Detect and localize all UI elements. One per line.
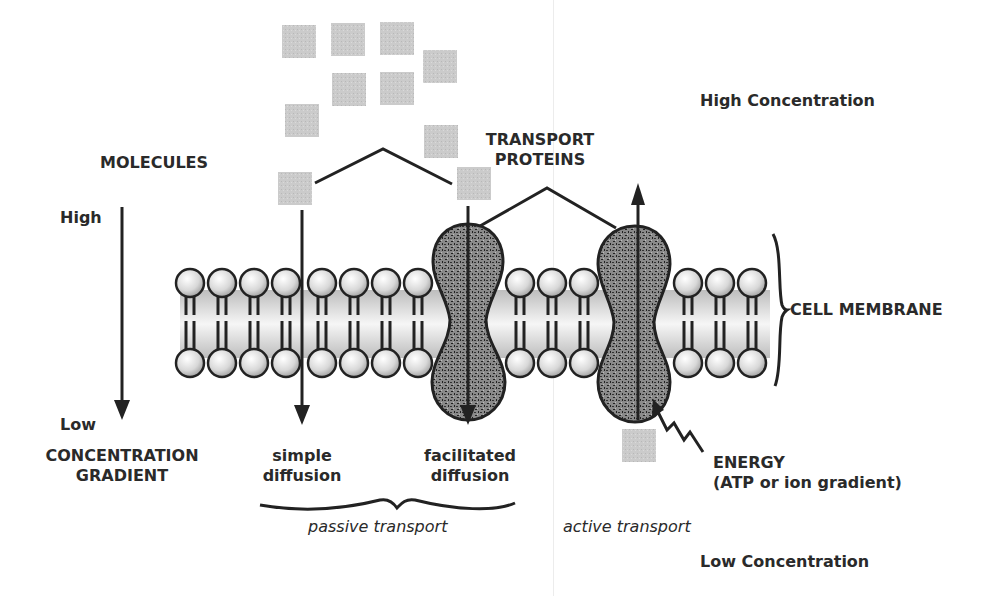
low-concentration-label: Low Concentration [700, 552, 869, 572]
phospholipid-head [404, 269, 432, 297]
phospholipid-head [570, 269, 598, 297]
facilitated-diffusion-label: facilitated diffusion [410, 446, 530, 486]
phospholipid-head [506, 269, 534, 297]
phospholipid-head [308, 349, 336, 377]
energy-lightning-icon [652, 399, 703, 452]
phospholipid-head [538, 349, 566, 377]
molecule-square [457, 167, 491, 200]
phospholipid-head [538, 269, 566, 297]
phospholipid-head [404, 349, 432, 377]
transport-proteins-line2: PROTEINS [480, 150, 600, 170]
gradient-high-label: High [60, 208, 102, 228]
phospholipid-head [340, 349, 368, 377]
phospholipid-head [240, 269, 268, 297]
phospholipid-head [372, 269, 400, 297]
transport-proteins-label: TRANSPORT PROTEINS [480, 130, 600, 170]
phospholipid-head [706, 349, 734, 377]
gradient-title-line1: CONCENTRATION [22, 446, 222, 466]
phospholipid-head [738, 269, 766, 297]
phospholipid-head [570, 349, 598, 377]
molecule-square [380, 22, 414, 55]
phospholipid-head [372, 349, 400, 377]
molecules-label: MOLECULES [100, 153, 208, 173]
simple-diffusion-line1: simple [252, 446, 352, 466]
phospholipid-head [674, 349, 702, 377]
energy-line2: (ATP or ion gradient) [713, 473, 902, 493]
molecule-square [424, 125, 458, 158]
molecule-square [285, 104, 319, 137]
phospholipid-head [208, 349, 236, 377]
phospholipid-head [208, 269, 236, 297]
molecule-square [622, 429, 656, 462]
phospholipid-head [738, 349, 766, 377]
active-transport-label: active transport [563, 517, 691, 537]
molecule-square [282, 25, 316, 58]
passive-transport-label: passive transport [308, 517, 447, 537]
molecule-square [332, 73, 366, 106]
cell-membrane-label: CELL MEMBRANE [790, 300, 943, 320]
molecule-square [331, 23, 365, 56]
phospholipid-head [308, 269, 336, 297]
passive-transport-brace [260, 500, 515, 509]
phospholipid-head [176, 349, 204, 377]
molecule-square [380, 72, 414, 105]
facilitated-diffusion-line2: diffusion [410, 466, 530, 486]
phospholipid-head [240, 349, 268, 377]
phospholipid-head [272, 349, 300, 377]
concentration-gradient-label: CONCENTRATION GRADIENT [22, 446, 222, 486]
simple-diffusion-label: simple diffusion [252, 446, 352, 486]
molecule-square [278, 172, 312, 205]
transport-proteins-line1: TRANSPORT [480, 130, 600, 150]
gradient-low-label: Low [60, 415, 96, 435]
high-concentration-label: High Concentration [700, 91, 875, 111]
cell-membrane-brace [773, 234, 787, 386]
phospholipid-head [706, 269, 734, 297]
phospholipid-head [176, 269, 204, 297]
molecule-square [423, 50, 457, 83]
energy-line1: ENERGY [713, 453, 902, 473]
phospholipid-head [674, 269, 702, 297]
concentration-gradient-arrow [114, 207, 130, 420]
phospholipid-head [272, 269, 300, 297]
phospholipid-head [340, 269, 368, 297]
phospholipid-head [506, 349, 534, 377]
energy-label: ENERGY (ATP or ion gradient) [713, 453, 902, 493]
simple-diffusion-line2: diffusion [252, 466, 352, 486]
membrane-diagram [0, 0, 997, 596]
gradient-title-line2: GRADIENT [22, 466, 222, 486]
transport-proteins-pointer-lines [480, 188, 616, 228]
facilitated-diffusion-line1: facilitated [410, 446, 530, 466]
